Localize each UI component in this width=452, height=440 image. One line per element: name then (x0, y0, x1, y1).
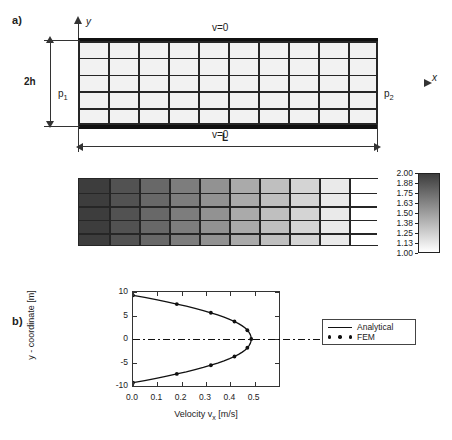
legend-line-swatch (328, 327, 352, 328)
mesh-gridline-vertical (169, 179, 171, 245)
mesh-gridline-vertical (199, 179, 201, 245)
mesh-gridline-vertical (228, 41, 230, 125)
y-axis-tick-right (275, 316, 279, 317)
fem-data-point (175, 372, 179, 376)
y-axis-title: y - coordinate [m] (26, 270, 36, 380)
colorbar-gradient (418, 173, 440, 253)
mesh-gridline-vertical (168, 41, 170, 125)
fem-data-point (209, 311, 213, 315)
colorbar-tick-label: 1.75 (396, 189, 413, 198)
length-dimension-line (79, 146, 378, 147)
x-axis-tick-label: 0.1 (150, 392, 162, 402)
plot-centerline (133, 339, 323, 340)
length-dim-arrow-left-icon (76, 143, 83, 151)
mesh-gridline-vertical (376, 41, 378, 125)
fem-data-point (175, 302, 179, 306)
height-dim-arrow-up-icon (46, 36, 54, 43)
pressure-cell (319, 179, 349, 245)
pressure-cell (169, 179, 199, 245)
height-dimension-line (50, 40, 51, 127)
mesh-gridline-vertical (258, 41, 260, 125)
x-axis-tick (230, 382, 231, 386)
mesh-gridline-vertical (349, 179, 351, 245)
mesh-gridline-horizontal (78, 58, 378, 60)
colorbar-tick (415, 193, 418, 194)
mesh-gridline-horizontal (79, 220, 377, 222)
fem-data-point (233, 320, 237, 324)
y-axis-tick (133, 363, 137, 364)
mesh-gridline-vertical (108, 41, 110, 125)
mesh-gridline-vertical (348, 41, 350, 125)
x-axis-tick-label: 0.5 (248, 392, 260, 402)
colorbar-tick-label: 1.25 (396, 229, 413, 238)
colorbar: 2.001.881.751.631.501.381.251.131.00 (418, 173, 440, 253)
figure-root: a) y x v=0 v=0 2h p1 p2 L (0, 0, 452, 440)
pressure-cell (289, 179, 319, 245)
x-axis-tick-top (206, 292, 207, 296)
mesh-gridline-vertical (288, 41, 290, 125)
fem-data-point (245, 346, 249, 350)
colorbar-tick-label: 1.63 (396, 199, 413, 208)
panel-label-a: a) (12, 14, 22, 26)
fem-data-point (233, 355, 237, 359)
mesh-gridline-vertical (229, 179, 231, 245)
x-axis-tick-top (255, 292, 256, 296)
pressure-cell (109, 179, 139, 245)
legend-dots-swatch (328, 335, 352, 338)
y-axis-tick (133, 292, 137, 293)
colorbar-tick-label: 1.88 (396, 179, 413, 188)
mesh-gridline-vertical (318, 41, 320, 125)
x-axis-tick (182, 382, 183, 386)
mesh-gridline-vertical (259, 179, 261, 245)
panel-a-geometry: a) y x v=0 v=0 2h p1 p2 L (0, 0, 452, 155)
pressure-field-mesh (78, 178, 378, 246)
y-axis-tick-label: -5 (104, 357, 128, 367)
plot-legend: Analytical FEM (322, 319, 416, 345)
mesh-gridline-horizontal (78, 41, 378, 43)
x-axis-title: Velocity vx [m/s] (132, 409, 280, 421)
mesh-gridline-vertical (198, 41, 200, 125)
legend-item-fem: FEM (326, 332, 412, 342)
mesh-gridline-horizontal (79, 193, 377, 195)
mesh-grid-geometry (78, 41, 378, 125)
x-axis-tick (206, 382, 207, 386)
height-dim-arrow-down-icon (46, 121, 54, 128)
fem-data-point (245, 328, 249, 332)
colorbar-tick (415, 233, 418, 234)
fem-data-point (209, 363, 213, 367)
pressure-outlet-label: p2 (384, 88, 394, 102)
colorbar-tick-label: 1.00 (396, 249, 413, 258)
length-dimension-label: L (222, 132, 228, 143)
pressure-cell (259, 179, 289, 245)
y-axis-tick-label: 5 (104, 310, 128, 320)
pressure-cell (79, 179, 109, 245)
colorbar-tick (415, 243, 418, 244)
colorbar-tick-label: 1.38 (396, 219, 413, 228)
panel-c-velocity-profile: c) Velocity vx [m/s] y - coordinate [m] … (0, 275, 452, 440)
mesh-gridline-horizontal (79, 233, 377, 235)
x-axis-tick-label: 0.4 (223, 392, 235, 402)
pressure-inlet-label: p1 (58, 88, 68, 102)
mesh-gridline-vertical (78, 41, 80, 125)
bc-label-top: v=0 (212, 22, 228, 33)
pressure-cell (199, 179, 229, 245)
x-axis-tick (255, 382, 256, 386)
colorbar-tick-label: 1.50 (396, 209, 413, 218)
x-axis-tick-label: 0.2 (175, 392, 187, 402)
pressure-cell (229, 179, 259, 245)
panel-b-pressure-field: b) 2.001.881.751.631.501.381.251.131.00 (0, 155, 452, 275)
legend-label-analytical: Analytical (357, 322, 393, 332)
y-axis-tick-right (275, 386, 279, 387)
colorbar-tick (415, 223, 418, 224)
colorbar-tick (415, 203, 418, 204)
x-axis-tick-top (157, 292, 158, 296)
colorbar-tick (415, 253, 418, 254)
y-axis-tick-label: 0 (104, 333, 128, 343)
y-axis-tick (133, 316, 137, 317)
y-axis-tick-label: 10 (104, 286, 128, 296)
legend-label-fem: FEM (357, 332, 375, 342)
colorbar-tick (415, 173, 418, 174)
mesh-gridline-horizontal (79, 206, 377, 208)
mesh-gridline-horizontal (78, 123, 378, 125)
x-axis-arrow-icon (424, 79, 432, 87)
